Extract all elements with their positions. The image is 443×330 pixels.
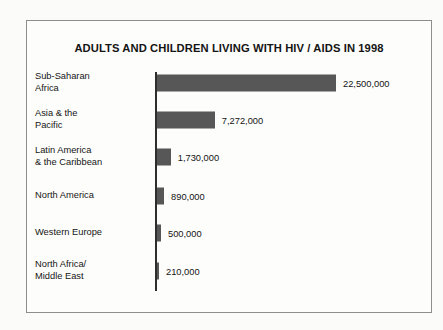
bar-wrap: 22,500,000 [157,75,431,92]
bar-row: Asia & thePacific 7,272,000 [27,102,431,138]
category-label-line1: Latin America [35,145,91,155]
category-label: Western Europe [35,227,149,239]
category-label: North Africa/Middle East [35,259,149,282]
chart-title: ADULTS AND CHILDREN LIVING WITH HIV / AI… [27,42,431,54]
category-label-line2: Africa [35,83,59,93]
category-label: Sub-SaharanAfrica [35,71,149,94]
bar-row: Latin America& the Caribbean 1,730,000 [27,139,431,175]
category-label-line1: Sub-Saharan [35,71,90,81]
category-label-line2: & the Caribbean [35,157,102,167]
bar-row: North America 890,000 [27,178,431,214]
bar [157,149,171,166]
category-label: Asia & thePacific [35,108,149,131]
bar-wrap: 7,272,000 [157,112,431,129]
category-label-line1: Western Europe [35,227,102,237]
bar [157,112,215,129]
category-label: North America [35,190,149,202]
chart-frame: ADULTS AND CHILDREN LIVING WITH HIV / AI… [26,20,432,313]
bar-wrap: 890,000 [157,188,431,205]
bar-wrap: 500,000 [157,225,431,242]
bar-value-label: 7,272,000 [222,115,263,125]
bar-value-label: 500,000 [168,228,202,238]
category-label-line2: Middle East [35,271,84,281]
category-label: Latin America& the Caribbean [35,145,149,168]
bar [157,263,159,280]
bar [157,188,164,205]
bar [157,75,336,92]
category-label-line1: North America [35,190,94,200]
bar-row: Western Europe 500,000 [27,215,431,251]
bar-value-label: 22,500,000 [343,78,390,88]
category-label-line1: Asia & the [35,108,77,118]
category-label-line1: North Africa/ [35,259,86,269]
bar-row: North Africa/Middle East 210,000 [27,253,431,289]
bar-row: Sub-SaharanAfrica 22,500,000 [27,65,431,101]
category-label-line2: Pacific [35,120,62,130]
bar [157,225,161,242]
bar-wrap: 1,730,000 [157,149,431,166]
bar-value-label: 210,000 [166,266,200,276]
plot-area: Sub-SaharanAfrica 22,500,000 Asia & theP… [27,65,431,305]
bar-value-label: 1,730,000 [178,152,219,162]
bar-wrap: 210,000 [157,263,431,280]
bar-value-label: 890,000 [171,191,205,201]
